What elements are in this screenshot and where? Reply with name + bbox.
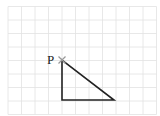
grid-diagram: P [0, 0, 160, 116]
right-triangle [62, 60, 114, 100]
grid-lines [8, 7, 157, 115]
point-p-label: P [47, 52, 54, 67]
diagram-canvas: P [0, 0, 160, 116]
